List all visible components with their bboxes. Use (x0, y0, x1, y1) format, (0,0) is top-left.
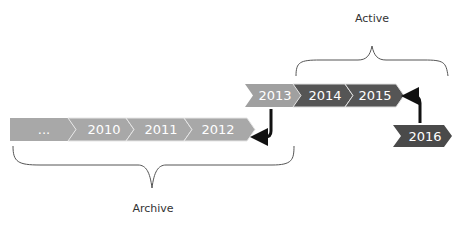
chevron-ellipsis-label: ... (38, 122, 50, 137)
active-row: 2013 2014 2015 (245, 84, 404, 107)
arrow-2016-to-active (410, 96, 420, 123)
chevron-2014-label: 2014 (308, 88, 341, 103)
chevron-2016-label: 2016 (408, 129, 441, 144)
active-brace (296, 46, 448, 76)
archive-row: ... 2010 2011 2012 (10, 118, 255, 141)
chevron-2015-label: 2015 (358, 88, 391, 103)
archive-brace (13, 146, 294, 188)
arrow-2013-to-archive (259, 109, 271, 137)
active-label: Active (355, 12, 389, 25)
chevron-2013-label: 2013 (258, 88, 291, 103)
archive-label: Archive (132, 202, 173, 215)
timeline-diagram: Active ... 2010 2011 2012 2013 2014 2015… (0, 0, 463, 225)
chevron-2012-label: 2012 (201, 122, 234, 137)
chevron-2011-label: 2011 (144, 122, 177, 137)
chevron-2010-label: 2010 (87, 122, 120, 137)
